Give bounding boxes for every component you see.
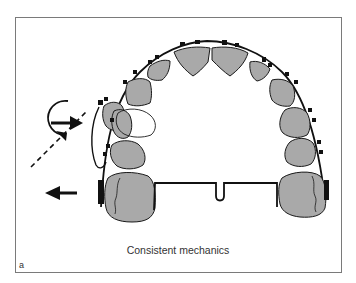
right-lateral-incisor [250, 61, 270, 81]
left-first-premolar-rotated-b [112, 110, 132, 139]
right-canine [270, 79, 295, 106]
dental-arch-diagram [0, 0, 356, 283]
right-molar-tube [324, 180, 329, 200]
rotation-arrow [48, 101, 68, 135]
transpalatal-bar [154, 183, 277, 210]
force-arrow-right-head [70, 116, 83, 130]
panel-label: a [19, 260, 24, 270]
left-central-incisor [174, 47, 210, 76]
left-teeth [103, 47, 210, 222]
left-first-molar [105, 172, 156, 222]
right-central-incisor [212, 47, 248, 76]
figure-caption: Consistent mechanics [0, 244, 356, 256]
right-teeth [212, 47, 326, 217]
right-first-molar [279, 172, 326, 217]
left-canine [126, 79, 152, 106]
left-second-premolar [110, 141, 145, 169]
force-arrow-left-head [45, 186, 60, 200]
left-molar-tube [98, 180, 104, 204]
dashed-force-arrow [31, 110, 88, 167]
right-second-premolar [285, 138, 316, 166]
right-first-premolar [280, 108, 310, 138]
